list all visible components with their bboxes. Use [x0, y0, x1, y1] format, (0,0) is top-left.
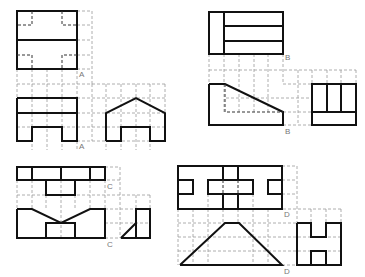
figure-b-front-view [209, 84, 283, 125]
figure-d: D D [178, 166, 341, 276]
figure-c-front-view [17, 209, 105, 238]
label-d-top: D [284, 210, 290, 219]
figure-a-side-view [106, 98, 165, 141]
label-d-front: D [284, 267, 290, 276]
label-b-top: B [285, 53, 290, 62]
label-c-top: C [107, 182, 113, 191]
label-c-front: C [107, 240, 113, 249]
figure-d-top-view [178, 166, 282, 209]
label-b-front: B [285, 127, 290, 136]
projection-diagram: A A [0, 0, 365, 277]
figure-b-side-view [312, 84, 356, 125]
figure-d-front-view [180, 223, 282, 265]
figure-a: A A [17, 11, 165, 151]
figure-c: C C [17, 167, 150, 249]
figure-c-side-view [121, 209, 150, 238]
figure-a-top-view [17, 11, 77, 69]
figure-d-side-view [297, 223, 341, 265]
figure-c-grid [17, 167, 150, 238]
figure-b: B B [209, 12, 356, 136]
label-a-top: A [79, 70, 85, 79]
figure-b-top-view [209, 12, 283, 54]
label-a-front: A [79, 142, 85, 151]
figure-a-grid [17, 11, 165, 150]
